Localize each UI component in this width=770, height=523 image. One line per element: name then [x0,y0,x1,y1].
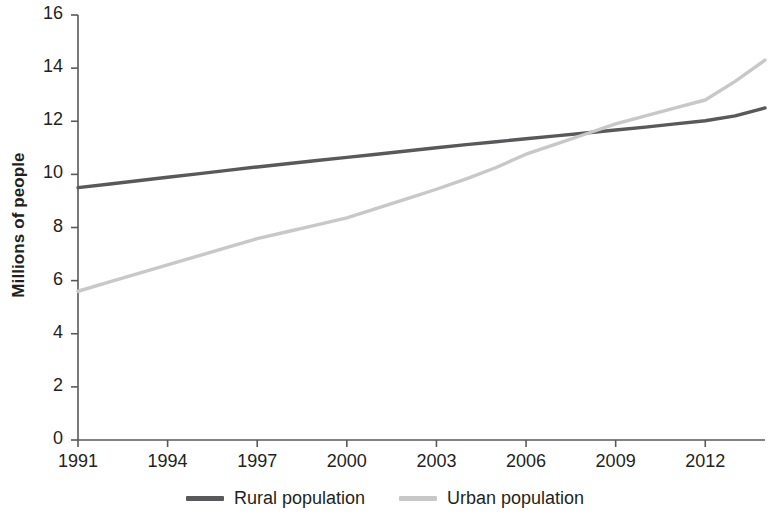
legend-entry[interactable]: Urban population [399,488,584,509]
legend-swatch [399,496,437,501]
legend-entry[interactable]: Rural population [186,488,365,509]
line-chart: Millions of people 0246810121416 1991199… [0,0,770,523]
series-lines [78,60,765,291]
legend-label: Urban population [447,488,584,509]
series-line-rural-population [78,108,765,188]
legend-label: Rural population [234,488,365,509]
axis-lines [78,15,765,440]
tick-marks [71,15,705,447]
legend-swatch [186,496,224,501]
plot-area [0,0,770,523]
chart-legend: Rural populationUrban population [0,488,770,509]
